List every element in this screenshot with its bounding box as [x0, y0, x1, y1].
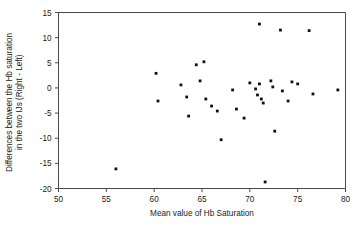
y-tick-label: -15 [40, 159, 52, 168]
data-point [155, 72, 158, 75]
data-point [312, 93, 315, 96]
y-tick-label: 15 [42, 9, 52, 18]
y-tick-label: -20 [40, 185, 52, 194]
x-tick-label: 50 [54, 195, 64, 204]
x-tick-label: 65 [197, 195, 207, 204]
plot-frame [59, 13, 346, 189]
y-tick-label: 0 [47, 84, 52, 93]
x-axis-ticks: 50556065707580 [54, 189, 351, 204]
data-point [185, 96, 188, 99]
data-point [248, 82, 251, 85]
data-point [262, 102, 265, 105]
x-tick-label: 70 [245, 195, 255, 204]
x-axis-title: Mean value of Hb Saturation [150, 209, 254, 218]
data-point [287, 100, 290, 103]
data-point [180, 84, 183, 87]
data-point [243, 117, 246, 120]
data-point [260, 98, 263, 101]
data-point [210, 105, 213, 108]
data-point [308, 29, 311, 32]
data-point [115, 167, 118, 170]
x-tick-label: 75 [293, 195, 303, 204]
x-tick-label: 55 [102, 195, 112, 204]
data-point [271, 86, 274, 89]
y-tick-label: 10 [42, 34, 52, 43]
x-tick-label: 80 [341, 195, 351, 204]
data-point [157, 100, 160, 103]
y-tick-label: -5 [44, 109, 52, 118]
data-point [220, 138, 223, 141]
data-point [258, 83, 261, 86]
y-axis-title-line2: in the two IJs (Right - Left) [15, 54, 24, 150]
data-point [258, 23, 261, 26]
data-point [235, 108, 238, 111]
data-point [204, 98, 207, 101]
y-tick-label: -10 [40, 134, 52, 143]
scatter-chart-figure: 151050-5-10-15-20 50556065707580 Mean va… [0, 0, 362, 236]
y-axis-title-line1: Differences between the Hb saturation [5, 32, 14, 172]
data-point [216, 110, 219, 113]
data-point [195, 63, 198, 66]
data-point [291, 80, 294, 83]
data-point [187, 115, 190, 118]
y-axis-title: Differences between the Hb saturation in… [5, 32, 24, 172]
data-point [281, 90, 284, 93]
data-point [256, 94, 259, 97]
x-tick-label: 60 [150, 195, 160, 204]
data-points-layer [115, 23, 340, 184]
y-axis-ticks: 151050-5-10-15-20 [40, 9, 59, 194]
data-point [199, 79, 202, 82]
data-point [269, 79, 272, 82]
chart-canvas: 151050-5-10-15-20 50556065707580 Mean va… [0, 0, 362, 236]
data-point [336, 89, 339, 92]
data-point [264, 181, 267, 184]
data-point [279, 29, 282, 32]
y-tick-label: 5 [47, 59, 52, 68]
data-point [254, 88, 257, 91]
data-point [203, 60, 206, 63]
data-point [296, 83, 299, 86]
data-point [273, 130, 276, 133]
data-point [231, 89, 234, 92]
